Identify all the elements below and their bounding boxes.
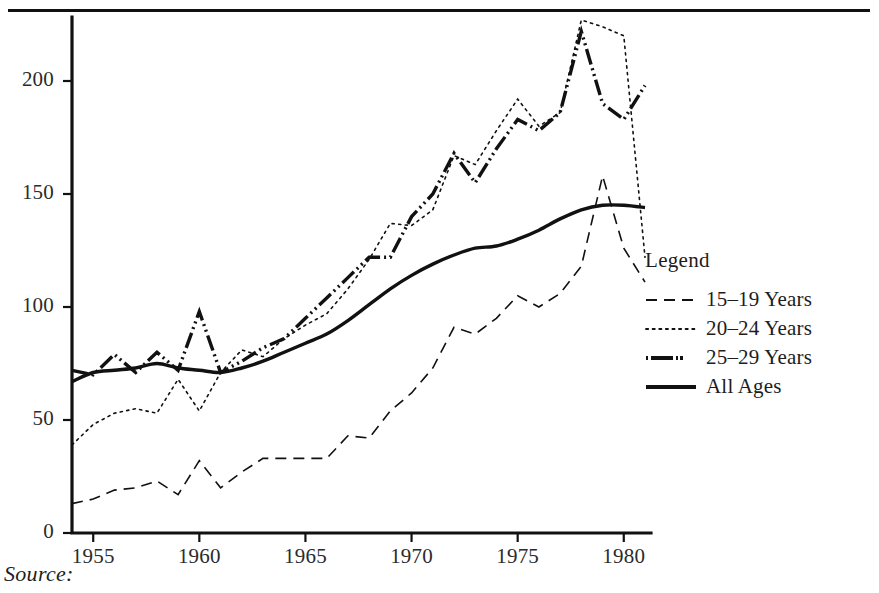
- legend-label: All Ages: [706, 374, 782, 399]
- legend-title: Legend: [645, 248, 875, 273]
- legend-item-25-29-years[interactable]: 25–29 Years: [645, 343, 875, 372]
- x-axis-label: 1970: [372, 544, 452, 569]
- y-axis-label: 0: [0, 519, 54, 544]
- y-axis-label: 150: [0, 180, 54, 205]
- legend-item-20-24-years[interactable]: 20–24 Years: [645, 314, 875, 343]
- x-axis-label: 1960: [159, 544, 239, 569]
- series-line-15-19-years: [72, 176, 645, 504]
- legend-swatch-icon: [645, 293, 697, 307]
- y-axis-label: 100: [0, 293, 54, 318]
- chart-legend: Legend 15–19 Years20–24 Years25–29 Years…: [645, 248, 875, 401]
- y-axis-label: 50: [0, 406, 54, 431]
- series-line-20-24-years: [72, 20, 645, 445]
- legend-label: 20–24 Years: [706, 316, 812, 341]
- legend-item-all-ages[interactable]: All Ages: [645, 372, 875, 401]
- legend-swatch-icon: [645, 322, 697, 336]
- legend-swatch-icon: [645, 380, 697, 394]
- legend-label: 25–29 Years: [706, 345, 812, 370]
- series-line-25-29-years: [72, 31, 645, 375]
- legend-rows: 15–19 Years20–24 Years25–29 YearsAll Age…: [645, 285, 875, 401]
- x-axis-label: 1975: [478, 544, 558, 569]
- x-axis-label: 1965: [265, 544, 345, 569]
- x-axis-label: 1980: [584, 544, 664, 569]
- y-axis-label: 200: [0, 67, 54, 92]
- source-label: Source:: [4, 561, 74, 587]
- legend-item-15-19-years[interactable]: 15–19 Years: [645, 285, 875, 314]
- legend-label: 15–19 Years: [706, 287, 812, 312]
- legend-swatch-icon: [645, 351, 697, 365]
